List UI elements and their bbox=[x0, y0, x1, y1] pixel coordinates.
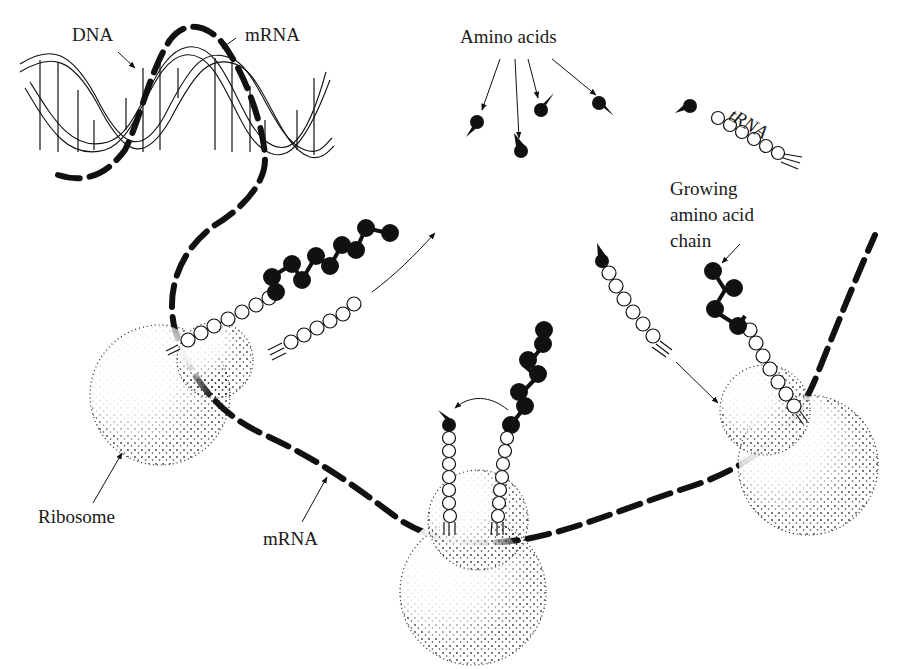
amino-acid-3 bbox=[534, 93, 554, 117]
protein-synthesis-diagram bbox=[0, 0, 902, 669]
peptide-transfer-arrow bbox=[455, 398, 508, 410]
growing-chain-label-line3: chain bbox=[670, 230, 711, 252]
incoming-trna-arrow bbox=[676, 362, 718, 403]
departure-arrow bbox=[372, 233, 435, 292]
amino-acid-2 bbox=[514, 133, 528, 158]
growing-chain-label-line2: amino acid bbox=[670, 204, 754, 226]
dna-helix bbox=[20, 47, 334, 158]
amino-acid-4 bbox=[592, 96, 614, 116]
ribosome-3 bbox=[720, 365, 878, 535]
amino-acids-label: Amino acids bbox=[460, 26, 557, 48]
departing-trna bbox=[268, 297, 361, 360]
growing-chain-ribosome-1 bbox=[265, 221, 397, 299]
ribosome-1 bbox=[88, 320, 253, 465]
mrna-bottom-label: mRNA bbox=[263, 528, 318, 550]
growing-chain-label-line1: Growing bbox=[670, 178, 738, 200]
growing-chain-ribosome-3 bbox=[706, 264, 745, 333]
mrna-top-label: mRNA bbox=[245, 24, 300, 46]
growing-chain-arrow bbox=[722, 244, 740, 263]
dna-label: DNA bbox=[72, 24, 113, 46]
amino-acid-arrows bbox=[482, 59, 596, 138]
free-amino-acids bbox=[466, 93, 697, 158]
ribosome-2 bbox=[398, 470, 546, 665]
incoming-trna bbox=[595, 243, 672, 357]
amino-acid-1 bbox=[466, 115, 484, 137]
amino-acid-5 bbox=[675, 99, 697, 113]
ribosome-label: Ribosome bbox=[38, 506, 115, 528]
